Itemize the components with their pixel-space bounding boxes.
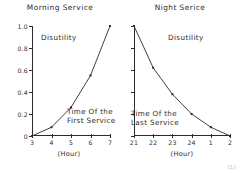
y-tick-21-4 [131,48,135,49]
annotation-morning: Time Of the First Service [67,108,116,125]
y-tick-3-2 [29,92,33,93]
x-tick [71,134,72,138]
y-tick-label: 0 [24,133,28,140]
y-tick-label: 0.8 [18,45,28,52]
x-tick-label: 23 [168,139,176,146]
y-tick-3-3 [29,70,33,71]
y-tick-label: 1.0 [18,23,28,30]
y-tick-3-5 [29,26,33,27]
y-tick-label: 0.2 [18,111,28,118]
x-tick [172,134,173,138]
annotation-night: Time Of the Last Service [131,110,179,127]
x-tick [211,134,212,138]
x-tick [230,134,231,138]
y-axis-label-night: Disutility [168,33,204,42]
x-tick-label: 22 [149,139,157,146]
y-tick-21-5 [131,26,135,27]
x-tick-label: 3 [30,139,34,146]
data-point-marker [210,126,212,128]
data-point-marker [152,67,154,69]
x-tick [134,134,135,138]
data-point-marker [90,75,92,77]
data-point-marker [51,126,53,128]
x-axis-label-morning: (Hour) [58,150,81,158]
y-tick-21-2 [131,92,135,93]
x-tick-label: 2 [228,139,232,146]
x-tick [192,134,193,138]
x-tick-label: 24 [187,139,195,146]
y-axis-label-morning: Disutility [41,33,77,42]
x-tick [32,134,33,138]
y-tick-label: 0.4 [18,89,28,96]
figure-container: Morning Service 00.20.40.60.81.034567 Di… [0,0,241,173]
x-tick-label: 4 [49,139,53,146]
x-tick [52,134,53,138]
x-tick-label: 1 [209,139,213,146]
y-tick-3-4 [29,48,33,49]
data-point-marker [109,25,111,27]
x-tick-label: 5 [69,139,73,146]
x-tick [91,134,92,138]
y-tick-21-3 [131,70,135,71]
data-point-marker [191,113,193,115]
annotation-morning-line2: First Service [67,117,116,126]
chart-title-night: Night Serice [120,3,240,12]
x-tick-label: 21 [130,139,138,146]
annotation-night-line2: Last Service [131,119,179,128]
y-tick-label: 0.6 [18,67,28,74]
x-tick [153,134,154,138]
x-tick-label: 7 [108,139,112,146]
x-tick-label: 6 [88,139,92,146]
x-axis-label-night: (Hour) [171,150,194,158]
x-tick [110,134,111,138]
chart-title-morning: Morning Service [0,3,120,12]
figure-marker: (1) [227,164,236,170]
y-tick-3-1 [29,114,33,115]
data-point-marker [171,93,173,95]
